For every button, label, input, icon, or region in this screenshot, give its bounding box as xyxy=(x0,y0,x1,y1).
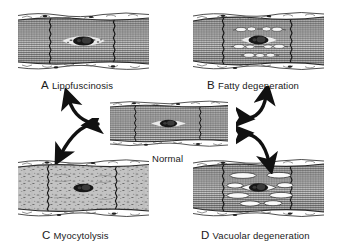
panel-normal-title: Normal xyxy=(152,153,183,164)
panel-d-title: Vacuolar degeneration xyxy=(213,230,310,241)
arrow-normal-to-b xyxy=(236,86,294,130)
panel-c-label: CMyocytolysis xyxy=(42,226,109,242)
panel-a-cell-body xyxy=(18,11,149,71)
panel-a-cell-drawing xyxy=(18,11,149,71)
panel-c-cell-body xyxy=(18,158,149,218)
panel-d-label: DVacuolar degeneration xyxy=(201,226,310,242)
panel-c-letter: C xyxy=(42,229,51,241)
panel-normal-cell-body xyxy=(110,100,228,148)
myocardial-degeneration-figure: ALipofuscinosis xyxy=(0,0,339,243)
panel-b-cell-drawing xyxy=(193,11,324,71)
panel-a-lipofuscinosis-cell xyxy=(18,11,149,71)
panel-normal-cell-drawing xyxy=(110,100,228,148)
arrow-normal-to-d xyxy=(236,126,298,174)
panel-a-letter: A xyxy=(41,79,49,91)
panel-b-letter: B xyxy=(207,79,215,91)
panel-c-cell-drawing xyxy=(18,158,149,218)
panel-normal-cell xyxy=(110,100,228,148)
panel-c-title: Myocytolysis xyxy=(54,230,109,241)
panel-d-letter: D xyxy=(201,229,210,241)
panel-normal-label: Normal xyxy=(152,154,183,164)
panel-b-fatty-degeneration-cell xyxy=(193,11,324,71)
panel-c-myocytolysis-cell xyxy=(18,158,149,218)
panel-b-cell-body xyxy=(193,11,324,71)
arrow-normal-to-c xyxy=(48,118,104,164)
